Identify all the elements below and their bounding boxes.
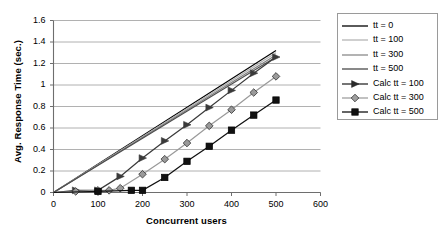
- data-point-marker: [206, 143, 212, 149]
- legend-item: Calc tt = 300: [340, 91, 437, 105]
- legend-swatch-none-icon: [340, 33, 370, 47]
- series-calc-tt-500: [54, 97, 280, 195]
- y-tick-label: 1.4: [16, 36, 46, 46]
- legend-label: Calc tt = 500: [373, 106, 424, 116]
- legend-label: Calc tt = 300: [373, 92, 424, 102]
- legend-swatch-none-icon: [340, 19, 370, 33]
- x-tick-label: 0: [39, 199, 69, 209]
- legend-item: tt = 0: [340, 19, 437, 33]
- y-tick-label: 1: [16, 79, 46, 89]
- x-tick-label: 400: [217, 199, 247, 209]
- data-point-marker: [273, 97, 279, 103]
- legend-swatch-none-icon: [340, 62, 370, 76]
- data-point-marker: [139, 187, 145, 193]
- legend-swatch-none-icon: [340, 48, 370, 62]
- y-tick-label: 0.2: [16, 165, 46, 175]
- data-point-marker: [352, 80, 359, 87]
- x-tick-label: 200: [128, 199, 158, 209]
- legend-swatch-triangle-icon: [340, 77, 370, 91]
- data-point-marker: [95, 188, 101, 194]
- legend-item: tt = 100: [340, 33, 437, 47]
- legend-label: tt = 0: [373, 20, 393, 30]
- y-tick-label: 1.6: [16, 15, 46, 25]
- data-point-marker: [162, 174, 168, 180]
- x-tick-label: 600: [306, 199, 336, 209]
- chart-legend: tt = 0tt = 100tt = 300tt = 500Calc tt = …: [337, 13, 438, 120]
- legend-label: tt = 100: [373, 34, 403, 44]
- x-axis-title: Concurrent users: [53, 215, 320, 226]
- legend-label: tt = 300: [373, 49, 403, 59]
- legend-swatch-square-icon: [340, 105, 370, 119]
- series-line: [54, 57, 277, 192]
- data-point-marker: [251, 112, 257, 118]
- chart-figure: Avg. Response Time (sec.) Concurrent use…: [0, 0, 442, 235]
- legend-item: Calc tt = 100: [340, 77, 437, 91]
- x-tick-label: 100: [83, 199, 113, 209]
- y-tick-label: 0.4: [16, 144, 46, 154]
- legend-label: tt = 500: [373, 63, 403, 73]
- data-point-marker: [351, 94, 359, 102]
- series-tt-500: [54, 57, 277, 192]
- legend-item: Calc tt = 500: [340, 105, 437, 119]
- x-tick-label: 300: [172, 199, 202, 209]
- data-point-marker: [184, 158, 190, 164]
- data-point-marker: [228, 127, 234, 133]
- data-point-marker: [352, 109, 358, 115]
- y-tick-label: 1.2: [16, 58, 46, 68]
- legend-label: Calc tt = 100: [373, 78, 424, 88]
- legend-item: tt = 500: [340, 62, 437, 76]
- y-tick-label: 0: [16, 187, 46, 197]
- legend-swatch-diamond-icon: [340, 91, 370, 105]
- data-point-marker: [139, 170, 147, 178]
- x-tick-label: 500: [261, 199, 291, 209]
- legend-item: tt = 300: [340, 48, 437, 62]
- data-point-marker: [128, 187, 134, 193]
- y-tick-label: 0.6: [16, 122, 46, 132]
- data-point-marker: [273, 54, 280, 61]
- y-tick-label: 0.8: [16, 101, 46, 111]
